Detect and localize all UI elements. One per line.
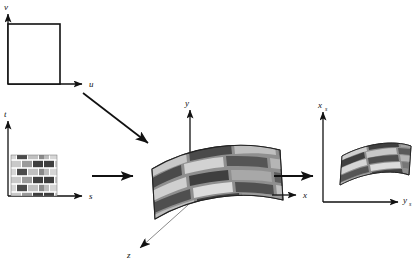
brick-texture-swatch [11,155,57,196]
unit-square-outline [8,24,60,84]
arrow-parameter-to-object [83,93,148,143]
u-axis-label: u [89,79,94,89]
figure-canvas: v u t s y [0,0,416,265]
z-axis-label: z [126,250,131,260]
xs-axis-label: x [317,100,322,110]
texture-mapping-diagram: v u t s y [0,0,416,265]
x-axis-label: x [302,190,307,200]
s-axis-label: s [89,191,93,201]
panel-uv-parameter-space: v u [4,2,94,89]
ys-axis-label: y [402,195,407,205]
panel-screen-space: x s y s [317,100,413,207]
curved-textured-surface [149,129,293,226]
ys-axis-subscript: s [409,201,412,207]
projected-textured-surface [339,134,413,189]
panel-st-texture-space: t s [4,109,93,201]
t-axis-label: t [4,109,7,119]
xs-axis-subscript: s [325,106,328,112]
v-axis-label: v [4,2,8,12]
y-axis-label: y [184,98,189,108]
panel-xyz-object-space: y [126,98,307,260]
